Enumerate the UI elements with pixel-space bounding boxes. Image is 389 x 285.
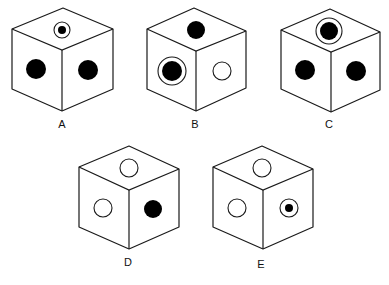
cube-label: E: [257, 258, 264, 270]
cube-label: C: [325, 118, 333, 130]
left-face-white-circle-icon: [94, 199, 112, 217]
cube-label: A: [58, 118, 66, 130]
top-face-white-circle-icon: [120, 159, 138, 177]
cube-a: A: [12, 8, 113, 130]
right-face-black-dot-icon: [78, 60, 98, 80]
right-face-white-circle-icon: [213, 62, 231, 80]
cube-label: B: [191, 118, 198, 130]
left-face-black-dot-icon: [295, 60, 315, 80]
right-face-ringed-black-dot-icon: [280, 199, 298, 217]
right-face-black-dot-icon: [144, 200, 162, 218]
cube-label: D: [124, 256, 132, 268]
left-face-ringed-black-dot-icon: [158, 57, 186, 85]
top-face-ringed-black-dot-icon: [316, 18, 342, 44]
top-face-black-dot-icon: [187, 21, 205, 39]
left-face-white-circle-icon: [228, 199, 246, 217]
top-face-ringed-black-dot-icon: [54, 22, 70, 38]
cube-c: C: [281, 9, 380, 130]
cube-b: B: [147, 8, 246, 130]
cube-e: E: [213, 146, 313, 270]
cube-d: D: [79, 146, 179, 268]
right-face-black-dot-icon: [346, 61, 366, 81]
top-face-white-circle-icon: [253, 159, 271, 177]
diagram-canvas: ABCDE: [0, 0, 389, 285]
left-face-black-dot-icon: [26, 59, 46, 79]
